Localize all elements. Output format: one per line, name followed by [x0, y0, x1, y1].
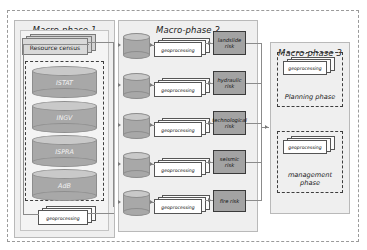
risk-tap-row4 [246, 162, 262, 163]
arrow-bus-to-db-row3 [118, 123, 121, 127]
mp2-input-bus [113, 42, 114, 207]
mp3-collection-bus [261, 43, 262, 201]
risk-tap-row2 [246, 83, 262, 84]
geoprocessing-label: geoprocessing [155, 47, 201, 52]
database-cylinder-icon-mp2-row4 [123, 152, 150, 178]
cylinder-top [123, 113, 150, 121]
database-cylinder-icon-adb: AdB [32, 169, 97, 201]
cylinder-top [32, 135, 97, 145]
geoprocessing-sheet-front: geoprocessing [283, 61, 327, 75]
mp1-census-tap [23, 44, 89, 45]
cylinder-bottom [123, 51, 150, 59]
database-label-ispra: ISPRA [32, 148, 97, 156]
risk-box-technological: technological risk [213, 111, 246, 135]
risk-tap-row5 [246, 200, 262, 201]
risk-tap-row3 [246, 123, 262, 124]
cylinder-bottom [123, 208, 150, 216]
cylinder-top [123, 152, 150, 160]
geoprocessing-sheet-front: geoprocessing [154, 199, 202, 214]
geoprocessing-label: geoprocessing [155, 167, 201, 172]
arrow-geo-to-risk-row3 [208, 121, 211, 125]
cylinder-top [32, 66, 97, 76]
planning-phase-label: Planning phase [278, 93, 342, 102]
arrow-db-to-geo-row3 [150, 123, 153, 127]
database-label-istat: ISTAT [32, 79, 97, 87]
arrow-bus-to-db-row5 [118, 200, 121, 204]
risk-box-landslide: landslide risk [213, 31, 246, 55]
database-cylinder-icon-mp2-row2 [123, 73, 150, 99]
mp1-to-mp2-link [88, 42, 114, 43]
geoprocessing-label: geoprocessing [284, 145, 326, 150]
arrow-db-to-geo-row2 [150, 83, 153, 87]
resource-census-sheet-front: Resource census [22, 38, 88, 55]
database-cylinder-icon-ispra: ISPRA [32, 135, 97, 167]
mp1-vertical-bus [23, 44, 24, 214]
cylinder-bottom [32, 88, 97, 98]
geoprocessing-sheet-front: geoprocessing [154, 82, 202, 97]
database-label-ingv: INGV [32, 114, 97, 122]
geoprocessing-label: geoprocessing [39, 215, 87, 220]
cylinder-top [123, 73, 150, 81]
risk-box-seismic: seismic risk [213, 150, 246, 174]
geoprocessing-sheet-front: geoprocessing [38, 210, 88, 225]
database-cylinder-icon-mp2-row5 [123, 190, 150, 216]
cylinder-bottom [32, 191, 97, 201]
arrow-geo-to-risk-row2 [208, 81, 211, 85]
cylinder-bottom [123, 131, 150, 139]
cylinder-bottom [123, 91, 150, 99]
risk-box-fire: fire risk [213, 190, 246, 212]
arrow-db-to-geo-row4 [150, 162, 153, 166]
arrow-to-macro-phase-3 [265, 125, 268, 129]
geoprocessing-sheet-front: geoprocessing [154, 122, 202, 137]
database-cylinder-icon-mp2-row1 [123, 33, 150, 59]
arrow-db-to-geo-row1 [150, 43, 153, 47]
cylinder-top [32, 101, 97, 111]
geoprocessing-label: geoprocessing [155, 87, 201, 92]
geoprocessing-label: geoprocessing [284, 66, 326, 71]
risk-box-hydraulic: hydraulic risk [213, 71, 246, 95]
arrow-bus-to-db-row2 [118, 83, 121, 87]
risk-tap-row1 [246, 43, 262, 44]
database-cylinder-icon-mp2-row3 [123, 113, 150, 139]
database-cylinder-icon-ingv: INGV [32, 101, 97, 133]
arrow-geo-to-risk-row1 [208, 41, 211, 45]
geoprocessing-label: geoprocessing [155, 204, 201, 209]
cylinder-bottom [32, 123, 97, 133]
geoprocessing-label: geoprocessing [155, 127, 201, 132]
cylinder-top [123, 190, 150, 198]
arrow-geo-to-risk-row4 [208, 160, 211, 164]
arrow-bus-to-db-row1 [118, 43, 121, 47]
cylinder-bottom [32, 157, 97, 167]
cylinder-bottom [123, 170, 150, 178]
cylinder-top [123, 33, 150, 41]
management-phase-label: management phase [278, 171, 342, 188]
arrow-db-to-geo-row5 [150, 200, 153, 204]
geoprocessing-sheet-front: geoprocessing [283, 140, 327, 154]
geoprocessing-sheet-front: geoprocessing [154, 42, 202, 57]
geoprocessing-sheet-front: geoprocessing [154, 162, 202, 177]
database-label-adb: AdB [32, 182, 97, 190]
arrow-bus-to-db-row4 [118, 162, 121, 166]
diagram-canvas: Macro-phase 1 Resource census ISTAT INGV… [0, 0, 367, 250]
mp1-geo-to-mp2-link [88, 213, 114, 214]
cylinder-top [32, 169, 97, 179]
mp1-geo-feed [23, 214, 39, 215]
arrow-geo-to-risk-row5 [208, 198, 211, 202]
database-cylinder-icon-istat: ISTAT [32, 66, 97, 98]
